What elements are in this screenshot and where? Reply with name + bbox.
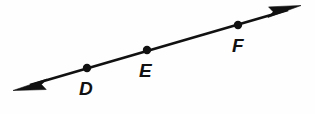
point-label-d: D (79, 79, 93, 98)
ray-line-shaft (30, 10, 288, 85)
point-dot-f (234, 21, 242, 29)
arrowhead-right-icon (268, 6, 301, 18)
point-label-e: E (139, 61, 152, 80)
line-diagram-canvas (0, 0, 315, 114)
arrowhead-left-icon (13, 79, 47, 91)
point-dot-d (83, 64, 91, 72)
line-diagram-figure: D E F (0, 0, 315, 114)
point-dot-e (143, 46, 151, 54)
point-label-f: F (232, 36, 244, 55)
